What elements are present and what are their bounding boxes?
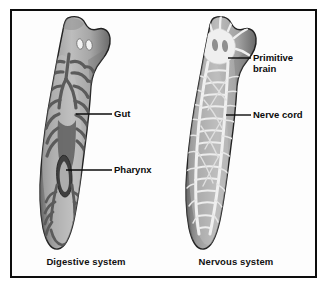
callout-primitive-brain: Primitive brain [253,52,293,74]
callout-pharynx: Pharynx [114,164,152,175]
callout-gut: Gut [114,108,130,119]
callout-nerve-cord: Nerve cord [253,109,303,120]
pharynx-structure [57,155,72,197]
illustration-stage [0,0,329,289]
panel-nervous-system [182,16,256,249]
anatomy-illustration-svg [0,0,329,289]
caption-nervous-system: Nervous system [186,256,286,267]
figure-root: Gut Pharynx Primitive brain Nerve cord D… [0,0,329,289]
caption-digestive-system: Digestive system [36,256,136,267]
panel-digestive-system [36,17,112,249]
